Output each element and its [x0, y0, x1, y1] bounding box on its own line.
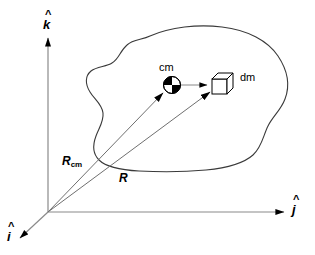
diagram-canvas: [0, 0, 315, 255]
i-hat-caret: ^: [8, 221, 14, 232]
center-of-mass-label: cm: [159, 62, 174, 73]
j-hat-caret: ^: [293, 194, 299, 205]
physics-diagram: ^ k ^ j ^ i Rcm R cm dm: [0, 0, 315, 255]
k-hat-caret: ^: [45, 9, 51, 20]
i-hat-axis-line: [20, 212, 48, 238]
r-cm-letter: R: [62, 154, 71, 168]
r-vector-label: R: [119, 172, 128, 184]
rigid-body-outline: [86, 26, 287, 172]
k-hat-axis-label: ^ k: [43, 18, 50, 31]
r-cm-vector-label: Rcm: [62, 155, 82, 167]
r-vector-line: [48, 92, 210, 212]
r-cm-vector-line: [48, 93, 163, 212]
center-of-mass-marker: [164, 77, 181, 94]
mass-element-label: dm: [240, 72, 255, 83]
mass-element-cube: [212, 73, 233, 94]
r-cm-subscript: cm: [71, 160, 83, 169]
i-hat-axis-label: ^ i: [7, 230, 11, 243]
j-hat-axis-label: ^ j: [292, 203, 296, 216]
r-letter: R: [119, 171, 128, 185]
